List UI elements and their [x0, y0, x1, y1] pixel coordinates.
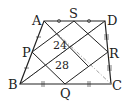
label-a: A — [31, 13, 42, 28]
label-d: D — [107, 13, 117, 28]
area-label-28: 28 — [55, 59, 69, 72]
area-label-24: 24 — [53, 39, 67, 52]
label-c: C — [112, 78, 122, 93]
trapezoid-abcd — [20, 21, 111, 84]
label-b: B — [8, 77, 18, 92]
line-rq — [65, 52, 108, 84]
line-bs — [20, 36, 53, 84]
label-r: R — [109, 46, 120, 61]
label-q: Q — [60, 86, 71, 101]
label-p: P — [22, 45, 31, 60]
line-sr — [74, 21, 108, 52]
trapezoid-diagram: A S D P R B Q C 24 28 — [0, 0, 126, 109]
label-s: S — [69, 6, 78, 21]
